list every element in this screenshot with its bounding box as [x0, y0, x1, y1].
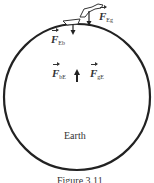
force-arrow-Eb — [71, 24, 76, 35]
force-label-gE: FgE — [90, 68, 104, 80]
skateboard-icon — [63, 19, 80, 25]
earth-label: Earth — [64, 131, 86, 141]
figure-caption: Figure 3.11 — [57, 176, 103, 183]
force-arrow-bE-gE — [74, 69, 80, 82]
free-body-diagram — [0, 0, 154, 183]
force-label-Eg: FEg — [99, 11, 113, 23]
force-label-bE: FbE — [52, 68, 66, 80]
earth-circle — [4, 24, 150, 170]
force-label-Eb: FEb — [51, 34, 65, 46]
